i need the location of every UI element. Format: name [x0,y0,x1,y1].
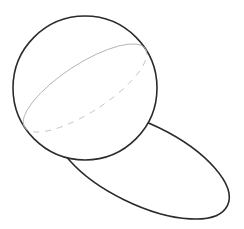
sphere-outline [13,16,157,160]
great-circle-front-arc [12,29,159,148]
great-circle-back-arc-dashed [12,29,159,148]
great-circle [12,29,159,148]
sphere-shadow-diagram [0,0,244,229]
